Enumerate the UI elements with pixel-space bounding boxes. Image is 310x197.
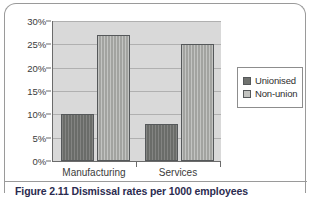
x-tick-label: Manufacturing — [62, 167, 125, 178]
y-tick-mark — [46, 114, 51, 115]
y-tick-label: 25% — [27, 39, 46, 50]
x-tick-mark — [220, 162, 221, 167]
y-tick-mark — [46, 44, 51, 45]
figure-caption: Figure 2.11 Dismissal rates per 1000 emp… — [15, 185, 305, 195]
y-tick-label: 20% — [27, 62, 46, 73]
legend-swatch-icon — [243, 90, 251, 98]
y-tick-label: 0% — [32, 156, 46, 167]
legend-swatch-icon — [243, 77, 251, 85]
y-tick-mark — [46, 161, 51, 162]
y-tick-mark — [46, 67, 51, 68]
gridline — [53, 21, 221, 22]
bar-non-union-services — [181, 44, 214, 161]
y-tick-label: 30% — [27, 16, 46, 27]
legend-item-label: Non-union — [255, 88, 298, 99]
legend-item-non-union: Non-union — [243, 88, 297, 99]
y-tick-mark — [46, 21, 51, 22]
plot-area — [52, 21, 221, 162]
y-axis: 0%5%10%15%20%25%30% — [5, 21, 46, 161]
legend-item-label: Unionised — [255, 75, 296, 86]
chart-legend: Unionised Non-union — [237, 67, 303, 108]
figure-card: 0%5%10%15%20%25%30% ManufacturingService… — [4, 3, 306, 193]
y-tick-mark — [46, 91, 51, 92]
bar-non-union-manufacturing — [97, 35, 130, 161]
bar-unionised-services — [145, 124, 178, 161]
y-tick-label: 15% — [27, 86, 46, 97]
bar-chart: 0%5%10%15%20%25%30% ManufacturingService… — [5, 4, 307, 180]
caption-divider — [5, 181, 307, 182]
bar-unionised-manufacturing — [61, 114, 94, 161]
legend-item-unionised: Unionised — [243, 75, 297, 86]
y-tick-mark — [46, 137, 51, 138]
y-tick-label: 10% — [27, 109, 46, 120]
x-tick-mark — [136, 162, 137, 167]
x-tick-label: Services — [159, 167, 197, 178]
y-tick-label: 5% — [32, 132, 46, 143]
